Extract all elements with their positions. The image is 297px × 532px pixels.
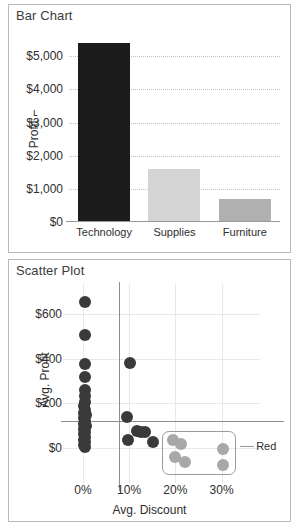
scatter-point-points[interactable] [79,329,91,341]
scatter-plot-annotation-label: Red [256,440,276,452]
visualization-stack: Bar Chart Profit ⌐ $0$1,000$2,000$3,000$… [0,0,297,532]
scatter-plot-x-tick-label: 0% [74,483,91,497]
scatter-plot-gridline-vertical [129,284,130,483]
scatter-plot-x-tick-label: 10% [117,483,141,497]
scatter-plot-y-tick-label: $0 [49,441,62,455]
scatter-plot-y-tick-label: $200 [35,396,62,410]
bar-chart-panel[interactable]: Bar Chart Profit ⌐ $0$1,000$2,000$3,000$… [8,4,291,253]
bar-chart-y-tick-label: $4,000 [26,82,63,96]
bar-chart-y-tick-label: $0 [50,215,63,229]
scatter-point-points[interactable] [79,296,91,308]
bar-chart-y-tick-label: $3,000 [26,116,63,130]
bar-chart-category-column[interactable]: Furniture [210,33,280,222]
bar-chart-bars[interactable]: TechnologySuppliesFurniture [69,33,280,222]
bar-chart-x-axis-line [66,221,280,222]
bar-chart-y-tick-label: $5,000 [26,49,63,63]
scatter-plot-y-tick-label: $600 [35,307,62,321]
scatter-plot-reference-line-horizontal [61,421,284,422]
scatter-plot-y-tick-label: $400 [35,352,62,366]
bar-chart-x-tick-label: Supplies [153,226,195,238]
scatter-point-points[interactable] [122,434,134,446]
scatter-plot-x-tick-label: 20% [163,483,187,497]
bar-chart-y-tick-label: $2,000 [26,149,63,163]
bar-chart-title: Bar Chart [16,8,73,23]
bar-chart-x-tick-label: Furniture [223,226,267,238]
bar-chart-y-tick-label: $1,000 [26,182,63,196]
scatter-plot-x-axis-label: Avg. Discount [9,503,290,517]
scatter-plot-gridline-horizontal [63,314,260,315]
bar-supplies[interactable] [148,169,200,222]
scatter-plot-gridline-horizontal [63,359,260,360]
scatter-plot-annotation-leader-line [240,446,254,447]
scatter-plot-gridline-horizontal [63,403,260,404]
scatter-point-points[interactable] [79,371,91,383]
bar-chart-category-column[interactable]: Technology [69,33,139,222]
bar-technology[interactable] [78,43,130,222]
scatter-plot-title: Scatter Plot [16,263,84,278]
scatter-plot-plot-area[interactable]: $0$200$400$600 0%10%20%30% Red [69,292,254,477]
scatter-plot-reference-line-vertical [119,282,120,491]
scatter-plot-x-tick-label: 30% [210,483,234,497]
scatter-plot-panel[interactable]: Scatter Plot Avg. Profit Avg. Discount $… [8,259,291,522]
scatter-point-points[interactable] [121,411,133,423]
bar-chart-x-tick-label: Technology [76,226,132,238]
scatter-point-points[interactable] [147,436,159,448]
bar-chart-plot-area[interactable]: $0$1,000$2,000$3,000$4,000$5,000 Technol… [69,33,280,222]
scatter-point-points[interactable] [124,357,136,369]
scatter-plot-selection-rectangle[interactable] [162,431,236,474]
bar-furniture[interactable] [219,199,271,222]
scatter-point-points[interactable] [79,358,91,370]
bar-chart-category-column[interactable]: Supplies [139,33,209,222]
scatter-point-points[interactable] [79,441,91,453]
